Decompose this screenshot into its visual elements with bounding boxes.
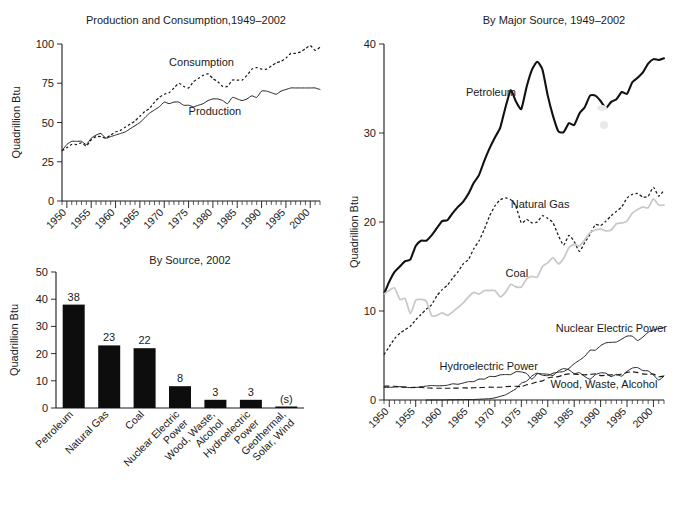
y-tick-label: 0 <box>48 195 54 207</box>
y-tick-label: 30 <box>364 127 376 139</box>
x-tick-label-group: 1950 <box>43 206 68 231</box>
series-label-wood-waste-alcohol: Wood, Waste, Alcohol <box>550 378 657 390</box>
x-tick-label-group: 1985 <box>551 405 576 430</box>
series-label-petroleum: Petroleum <box>466 86 516 98</box>
y-tick-label: 10 <box>36 375 48 387</box>
y-tick-label: 75 <box>42 77 54 89</box>
chart-production-consumption: Production and Consumption,1949–2002Quad… <box>4 8 344 250</box>
y-tick-label: 40 <box>364 38 376 50</box>
bar-value-label: 23 <box>103 331 115 343</box>
y-axis-label: Quadrillion Btu <box>8 304 20 376</box>
x-tick-label: 1950 <box>366 405 391 430</box>
x-tick-label: 2000 <box>630 405 655 430</box>
x-tick-label: 1970 <box>141 206 166 231</box>
x-tick-label: 1965 <box>445 405 470 430</box>
y-tick-label: 20 <box>36 348 48 360</box>
chart-title: By Source, 2002 <box>149 254 230 266</box>
y-axis-label: Quadrillion Btu <box>10 86 22 158</box>
bar-value-label: 22 <box>138 334 150 346</box>
bar-coal <box>134 348 156 408</box>
x-tick-label-group: 1960 <box>419 405 444 430</box>
bar-nuclear-electric-power <box>169 386 191 408</box>
series-label-nuclear-electric-power: Nuclear Electric Power <box>556 322 668 334</box>
y-tick-label: 10 <box>364 305 376 317</box>
y-tick-label: 100 <box>36 38 54 50</box>
x-tick-label: 1980 <box>524 405 549 430</box>
x-tick-label: 1990 <box>577 405 602 430</box>
x-tick-label: 1955 <box>68 206 93 231</box>
series-label-hydroelectric-power: Hydroelectric Power <box>439 360 538 372</box>
y-tick-label: 0 <box>370 394 376 406</box>
x-tick-label: 1990 <box>238 206 263 231</box>
series-line-coal <box>384 199 664 316</box>
x-tick-label-group: 2000 <box>287 206 312 231</box>
y-tick-label: 30 <box>36 320 48 332</box>
x-tick-label: 1985 <box>551 405 576 430</box>
bar-value-label: 3 <box>248 386 254 398</box>
x-tick-label: 1975 <box>498 405 523 430</box>
x-tick-label-group: 1975 <box>165 206 190 231</box>
series-label-production: Production <box>189 105 242 117</box>
chart-title: Production and Consumption,1949–2002 <box>86 14 286 26</box>
x-tick-label-group: 1980 <box>524 405 549 430</box>
x-tick-label-group: 1960 <box>92 206 117 231</box>
bar-value-label: 3 <box>212 386 218 398</box>
bar-value-label: 8 <box>177 372 183 384</box>
production-consumption-svg: Production and Consumption,1949–2002Quad… <box>4 8 344 250</box>
bar-hydroelectric-power <box>240 400 262 408</box>
bar-value-label: (s) <box>280 393 293 405</box>
bar-natural-gas <box>98 345 120 408</box>
x-tick-label-group: 1995 <box>262 206 287 231</box>
x-tick-label-group: 1955 <box>68 206 93 231</box>
x-tick-label: 1955 <box>392 405 417 430</box>
chart-by-source-2002: By Source, 2002Quadrillion Btu0102030405… <box>4 250 344 512</box>
bar-value-label: 38 <box>68 291 80 303</box>
x-tick-label-group: 1950 <box>366 405 391 430</box>
series-label-natural-gas: Natural Gas <box>511 198 570 210</box>
chart-by-major-source: By Major Source, 1949–2002Quadrillion Bt… <box>344 8 684 478</box>
x-tick-label: 1970 <box>471 405 496 430</box>
x-tick-label-group: 1970 <box>141 206 166 231</box>
x-tick-label: 2000 <box>287 206 312 231</box>
y-tick-label: 20 <box>364 216 376 228</box>
bar-wood-waste-alcohol <box>204 400 226 408</box>
by-major-source-svg: By Major Source, 1949–2002Quadrillion Bt… <box>344 8 684 478</box>
x-tick-label: 1950 <box>43 206 68 231</box>
x-tick-label-group: 1965 <box>445 405 470 430</box>
scan-artifact <box>597 105 608 129</box>
x-tick-label: 1960 <box>419 405 444 430</box>
y-axis-label: Quadrillion Btu <box>348 196 360 268</box>
x-tick-label-group: 1985 <box>214 206 239 231</box>
x-tick-label: 1960 <box>92 206 117 231</box>
x-category-label-group: Coal <box>122 408 146 432</box>
by-source-svg: By Source, 2002Quadrillion Btu0102030405… <box>4 250 344 512</box>
x-tick-label: 1995 <box>262 206 287 231</box>
scan-artifact-mark <box>597 105 607 111</box>
x-tick-label-group: 1995 <box>603 405 628 430</box>
x-tick-label-group: 1980 <box>189 206 214 231</box>
x-tick-label-group: 1990 <box>577 405 602 430</box>
x-tick-label: 1995 <box>603 405 628 430</box>
x-tick-label-group: 1975 <box>498 405 523 430</box>
x-tick-label: 1975 <box>165 206 190 231</box>
x-tick-label: 1965 <box>116 206 141 231</box>
y-tick-label: 50 <box>36 266 48 278</box>
x-tick-label-group: 1965 <box>116 206 141 231</box>
bar-petroleum <box>63 305 85 408</box>
chart-title: By Major Source, 1949–2002 <box>483 14 625 26</box>
series-line-petroleum <box>384 58 664 294</box>
x-tick-label-group: 1990 <box>238 206 263 231</box>
x-tick-label-group: 1955 <box>392 405 417 430</box>
y-tick-label: 40 <box>36 293 48 305</box>
x-tick-label-group: 1970 <box>471 405 496 430</box>
scan-artifact-mark <box>600 121 608 129</box>
x-tick-label: 1980 <box>189 206 214 231</box>
y-tick-label: 25 <box>42 156 54 168</box>
energy-figure: Production and Consumption,1949–2002Quad… <box>0 0 684 516</box>
series-label-coal: Coal <box>506 267 529 279</box>
y-tick-label: 0 <box>42 402 48 414</box>
y-tick-label: 50 <box>42 117 54 129</box>
x-tick-label-group: 2000 <box>630 405 655 430</box>
series-line-production <box>62 88 320 151</box>
x-category-label: Coal <box>122 408 146 432</box>
